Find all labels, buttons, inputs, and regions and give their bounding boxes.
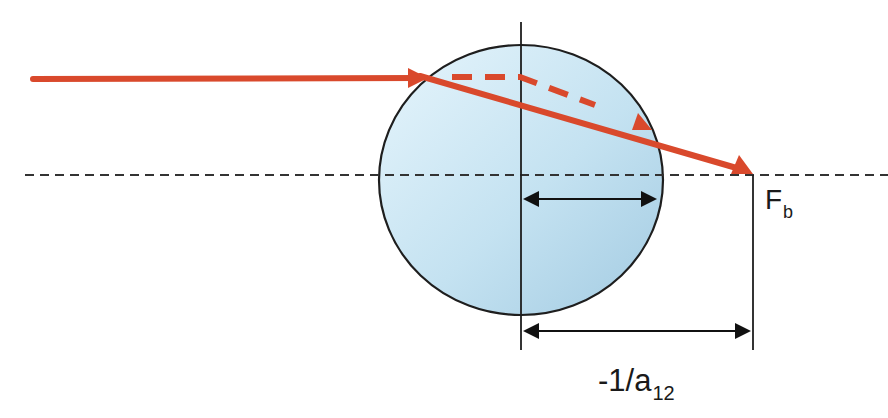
incoming-ray bbox=[33, 68, 428, 88]
focal-point-label-main: F bbox=[765, 184, 782, 215]
focal-distance-label-main: -1/a bbox=[598, 363, 651, 398]
focal-distance-dimension-arrow bbox=[523, 323, 751, 339]
ray-diagram bbox=[0, 0, 888, 418]
focal-distance-label-sub: 12 bbox=[652, 382, 674, 404]
focal-distance-label: -1/a12 bbox=[598, 363, 675, 399]
focal-point-label-sub: b bbox=[783, 202, 793, 222]
focal-point-label: Fb bbox=[765, 184, 793, 216]
